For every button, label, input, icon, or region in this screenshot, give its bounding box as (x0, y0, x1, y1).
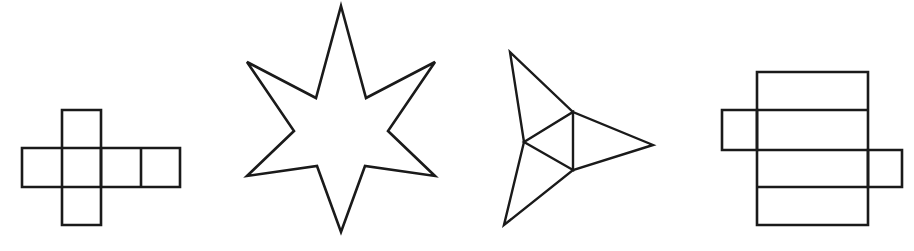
figure-box-net-rectangles (0, 0, 914, 251)
box-net-right-flap (868, 150, 902, 187)
figure-sheet (0, 0, 914, 251)
box-net-left-flap (722, 110, 757, 150)
box-net-group (722, 72, 902, 225)
box-net-main-rectangle (757, 72, 868, 225)
